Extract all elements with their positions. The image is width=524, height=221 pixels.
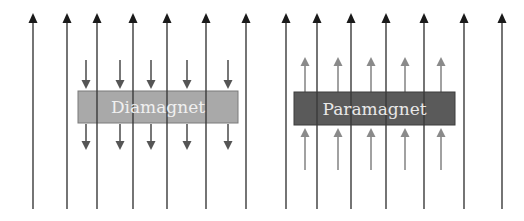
induced-arrow-down xyxy=(116,60,125,89)
induced-arrow-up xyxy=(334,57,343,92)
arrowhead-up-icon xyxy=(129,13,138,23)
arrowhead-down-icon xyxy=(82,141,91,150)
arrowhead-down-icon xyxy=(147,80,156,89)
arrowhead-down-icon xyxy=(147,141,156,150)
arrowhead-up-icon xyxy=(313,13,322,23)
arrowhead-up-icon xyxy=(420,13,429,23)
induced-arrow-up xyxy=(301,57,310,92)
arrowhead-up-icon xyxy=(202,13,211,23)
diamagnet-label: Diamagnet xyxy=(111,97,205,117)
arrowhead-up-icon xyxy=(301,128,310,137)
arrowhead-down-icon xyxy=(116,80,125,89)
arrowhead-down-icon xyxy=(116,141,125,150)
induced-arrow-up xyxy=(301,128,310,170)
field-line xyxy=(63,13,72,209)
arrowhead-up-icon xyxy=(63,13,72,23)
arrowhead-up-icon xyxy=(301,57,310,66)
arrowhead-down-icon xyxy=(224,141,233,150)
induced-arrow-up xyxy=(334,128,343,170)
induced-arrow-up xyxy=(437,128,446,170)
arrowhead-down-icon xyxy=(183,80,192,89)
paramagnet-label: Paramagnet xyxy=(322,99,426,119)
arrowhead-down-icon xyxy=(82,80,91,89)
arrowhead-down-icon xyxy=(224,80,233,89)
field-line xyxy=(282,13,291,209)
arrowhead-up-icon xyxy=(334,57,343,66)
arrowhead-down-icon xyxy=(183,141,192,150)
induced-arrow-up xyxy=(367,57,376,92)
induced-arrow-down xyxy=(82,124,91,150)
induced-arrow-down xyxy=(82,60,91,89)
magnetism-diagram: DiamagnetParamagnet xyxy=(0,0,524,221)
arrowhead-up-icon xyxy=(437,57,446,66)
arrowhead-up-icon xyxy=(460,13,469,23)
arrowhead-up-icon xyxy=(93,13,102,23)
arrowhead-up-icon xyxy=(29,13,38,23)
arrowhead-up-icon xyxy=(401,128,410,137)
field-line xyxy=(29,13,38,209)
induced-arrow-down xyxy=(183,124,192,150)
arrowhead-up-icon xyxy=(367,57,376,66)
arrowhead-up-icon xyxy=(498,13,507,23)
arrowhead-up-icon xyxy=(282,13,291,23)
induced-arrow-up xyxy=(401,57,410,92)
arrowhead-up-icon xyxy=(334,128,343,137)
induced-arrow-down xyxy=(147,60,156,89)
induced-arrow-up xyxy=(437,57,446,92)
induced-arrow-down xyxy=(116,124,125,150)
arrowhead-up-icon xyxy=(347,13,356,23)
induced-arrow-down xyxy=(147,124,156,150)
field-line xyxy=(242,13,251,209)
field-line xyxy=(460,13,469,209)
arrowhead-up-icon xyxy=(401,57,410,66)
material-labels: DiamagnetParamagnet xyxy=(111,97,427,119)
field-line xyxy=(498,13,507,209)
induced-arrow-up xyxy=(401,128,410,170)
arrowhead-up-icon xyxy=(437,128,446,137)
induced-arrow-down xyxy=(224,124,233,150)
arrowhead-up-icon xyxy=(367,128,376,137)
induced-arrow-up xyxy=(367,128,376,170)
induced-arrow-down xyxy=(224,60,233,89)
induced-arrow-down xyxy=(183,60,192,89)
arrowhead-up-icon xyxy=(242,13,251,23)
arrowhead-up-icon xyxy=(382,13,391,23)
arrowhead-up-icon xyxy=(163,13,172,23)
